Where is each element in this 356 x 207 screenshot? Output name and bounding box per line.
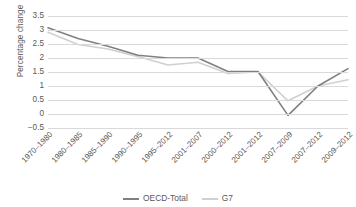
legend-item: G7 — [202, 194, 233, 203]
legend-label: OECD-Total — [143, 194, 188, 203]
legend-swatch-icon — [123, 198, 139, 200]
legend-item: OECD-Total — [123, 194, 188, 203]
legend-swatch-icon — [202, 198, 218, 200]
chart-container: Percentage change 3.532.521.510.50−0.5 1… — [0, 0, 356, 207]
x-axis-tick-labels: 1970–19801980–19851985–19901990–19951995… — [0, 0, 356, 207]
legend-label: G7 — [222, 194, 233, 203]
chart-legend: OECD-TotalG7 — [0, 194, 356, 203]
